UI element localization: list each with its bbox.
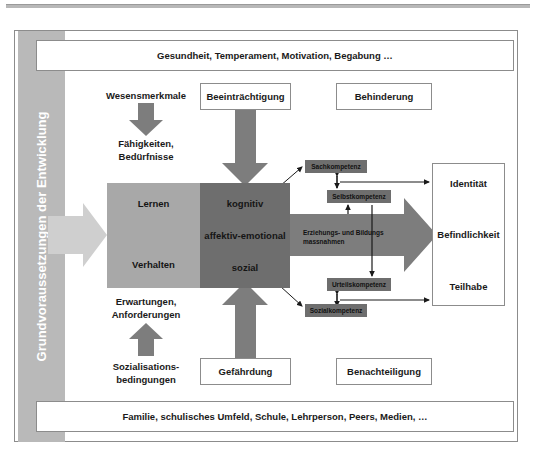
box-beeintraechtigung: Beeinträchtigung	[200, 83, 291, 110]
caption-sozialisationsbedingungen: Sozialisations- bedingungen	[96, 361, 196, 387]
diagram-root: Grundvoraussetzungen der Entwicklung	[0, 0, 534, 461]
box-benachteiligung: Benachteiligung	[336, 358, 432, 385]
outcome-befindlichkeit: Befindlichkeit	[432, 229, 505, 240]
caption-wesensmerkmale: Wesensmerkmale	[100, 90, 192, 103]
core-label-lernen: Lernen	[107, 198, 200, 209]
competence-selbstkompetenz: Selbstkompetenz	[327, 190, 391, 203]
caption-erwartungen-anforderungen: Erwartungen, Anforderungen	[100, 296, 192, 322]
core-label-verhalten: Verhalten	[107, 259, 200, 270]
competence-sachkompetenz: Sachkompetenz	[305, 160, 367, 173]
caption-faehigkeiten-beduerfnisse: Fähigkeiten, Bedürfnisse	[100, 138, 192, 164]
bottom-environment-box: Familie, schulisches Umfeld, Schule, Leh…	[36, 401, 514, 432]
core-label-kognitiv: kognitiv	[200, 198, 290, 209]
competence-urteilskompetenz: Urteilskompetenz	[327, 278, 391, 291]
core-label-sozial: sozial	[200, 262, 290, 273]
core-label-affektiv-emotional: affektiv-emotional	[200, 230, 290, 241]
top-divider-rule	[6, 4, 530, 8]
side-band-label: Grundvoraussetzungen der Entwicklung	[18, 31, 65, 442]
measures-band-label: Erziehungs- und Bildungs massnahmen	[303, 228, 395, 247]
competence-sozialkompetenz: Sozialkompetenz	[305, 304, 367, 317]
box-behinderung: Behinderung	[336, 83, 432, 110]
outcome-identitaet: Identität	[432, 178, 505, 189]
outcome-teilhabe: Teilhabe	[432, 281, 505, 292]
top-preconditions-box: Gesundheit, Temperament, Motivation, Beg…	[36, 40, 514, 71]
box-gefaehrdung: Gefährdung	[200, 358, 291, 385]
